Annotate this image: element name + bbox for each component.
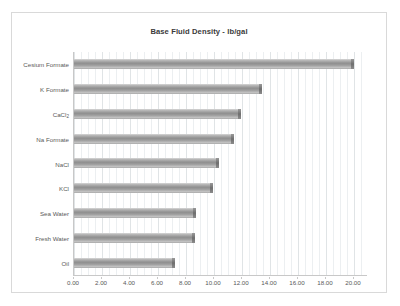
bar-k-formate[interactable] <box>74 84 262 94</box>
x-axis-tick-label: 6.00 <box>151 279 163 286</box>
x-axis-tick-label: 16.00 <box>289 279 304 286</box>
y-axis-label-cacl2: CaCl2 <box>12 110 69 117</box>
bar-oil[interactable] <box>74 258 175 268</box>
bar-nacl[interactable] <box>74 158 218 168</box>
bar-slot <box>74 176 367 201</box>
chart-title: Base Fluid Density - lb/gal <box>12 27 386 36</box>
bar-cacl2[interactable] <box>74 109 241 119</box>
bar-slot <box>74 102 367 127</box>
y-axis-label-nacl: NaCl <box>12 160 69 167</box>
y-axis-label-cesium-formate: Cesium Formate <box>12 61 69 68</box>
x-axis-tick-labels: 0.002.004.006.008.0010.0012.0014.0016.00… <box>73 277 367 291</box>
plot-area <box>73 52 367 275</box>
x-axis-tick-label: 10.00 <box>205 279 220 286</box>
y-axis-label-kcl: KCl <box>12 185 69 192</box>
bar-series <box>74 52 367 275</box>
bar-slot <box>74 201 367 226</box>
x-axis-tick-label: 0.00 <box>67 279 79 286</box>
y-axis-category-labels: Cesium FormateK FormateCaCl2Na FormateNa… <box>12 52 69 275</box>
x-axis-tick-label: 4.00 <box>123 279 135 286</box>
x-axis-tick-label: 12.00 <box>233 279 248 286</box>
bar-slot <box>74 52 367 77</box>
x-axis-tick-label: 20.00 <box>345 279 360 286</box>
y-axis-label-sea-water: Sea Water <box>12 210 69 217</box>
bar-slot <box>74 225 367 250</box>
bar-cesium-formate[interactable] <box>74 59 353 69</box>
y-axis-label-oil: Oil <box>12 259 69 266</box>
bar-slot <box>74 151 367 176</box>
bar-slot <box>74 250 367 275</box>
y-axis-label-na-formate: Na Formate <box>12 135 69 142</box>
x-axis-line <box>73 275 367 276</box>
bar-slot <box>74 126 367 151</box>
chart-frame: Base Fluid Density - lb/gal Cesium Forma… <box>11 12 387 293</box>
y-axis-label-k-formate: K Formate <box>12 86 69 93</box>
bar-kcl[interactable] <box>74 183 213 193</box>
y-axis-label-fresh-water: Fresh Water <box>12 234 69 241</box>
bar-slot <box>74 77 367 102</box>
x-axis-tick-label: 18.00 <box>317 279 332 286</box>
bar-na-formate[interactable] <box>74 134 234 144</box>
bar-fresh-water[interactable] <box>74 233 194 243</box>
x-axis-tick-label: 14.00 <box>261 279 276 286</box>
x-axis-tick-label: 2.00 <box>95 279 107 286</box>
x-axis-tick-label: 8.00 <box>179 279 191 286</box>
bar-sea-water[interactable] <box>74 208 196 218</box>
